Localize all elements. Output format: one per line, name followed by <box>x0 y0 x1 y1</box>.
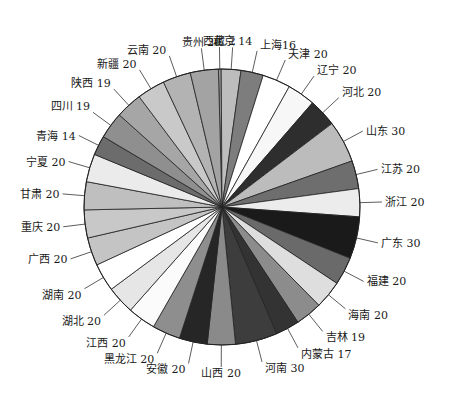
leader-line <box>277 60 286 80</box>
leader-line <box>63 194 85 196</box>
leader-line <box>79 136 99 146</box>
slice-label: 河北 20 <box>342 86 382 99</box>
leader-line <box>93 112 111 125</box>
leader-line <box>157 333 166 353</box>
leader-line <box>71 252 92 259</box>
slice-label: 内蒙古 17 <box>301 347 352 361</box>
slice-label: 新疆 20 <box>97 57 137 71</box>
slice-label: 吉林 19 <box>326 330 366 344</box>
slice-label: 湖南 20 <box>42 289 82 302</box>
leader-line <box>252 51 257 72</box>
slice-label: 河南 30 <box>265 362 305 375</box>
slice-label: 四川 19 <box>51 100 91 113</box>
slice-label: 湖北 20 <box>62 315 102 328</box>
slice-label: 陕西 19 <box>71 76 111 90</box>
leader-line <box>231 47 232 69</box>
slice-label: 重庆 20 <box>21 220 61 234</box>
leader-line <box>344 271 363 281</box>
slice-label: 浙江 20 <box>385 196 425 209</box>
slice-label: 云南 20 <box>127 44 167 57</box>
leader-line <box>69 162 90 168</box>
slice-label: 贵州 20 <box>182 36 222 49</box>
slice-label: 江苏 20 <box>381 163 421 176</box>
pie-chart: 西藏 2北京 14上海16天津 20辽宁 20河北 20山东 30江苏 20浙江… <box>0 0 450 404</box>
leader-line <box>356 169 377 174</box>
leader-line <box>201 48 204 70</box>
leader-line <box>360 202 382 203</box>
leader-line <box>63 224 85 227</box>
slice-label: 江西 20 <box>86 337 126 350</box>
leader-line <box>323 98 339 113</box>
leader-line <box>104 300 120 315</box>
slice-label: 青海 14 <box>36 129 76 143</box>
slice-label: 山西 20 <box>201 367 241 380</box>
slice-label: 广东 30 <box>381 237 421 250</box>
leader-line <box>189 342 194 364</box>
slice-label: 广西 20 <box>28 253 68 266</box>
slice-label: 山东 30 <box>366 125 406 138</box>
slice-label: 天津 20 <box>288 48 328 61</box>
leader-line <box>114 89 129 105</box>
slice-label: 甘肃 20 <box>20 188 60 201</box>
leader-line <box>169 56 176 77</box>
leader-line <box>84 277 103 288</box>
leader-line <box>301 76 314 94</box>
slice-label: 宁夏 20 <box>26 155 66 169</box>
leader-line <box>328 295 345 309</box>
leader-line <box>140 70 151 89</box>
slice-label: 福建 20 <box>367 274 407 288</box>
slice-label: 海南 20 <box>348 308 388 322</box>
slice-label: 辽宁 20 <box>317 63 357 77</box>
pie-slices <box>84 69 360 345</box>
leader-line <box>343 131 362 141</box>
slice-label: 黑龙江 20 <box>104 353 155 366</box>
leader-line <box>129 319 142 337</box>
leader-line <box>257 341 263 362</box>
leader-line <box>309 314 323 331</box>
leader-line <box>356 238 377 243</box>
leader-line <box>288 328 298 347</box>
